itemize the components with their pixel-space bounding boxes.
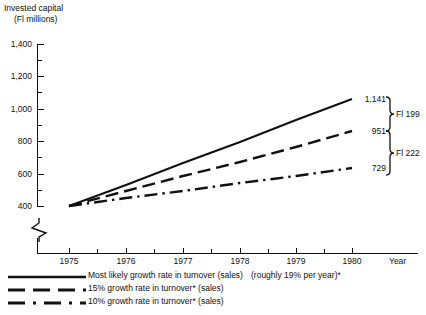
brace-lower (386, 131, 394, 175)
legend-row-most-likely: Most likely growth rate in turnover (sal… (2, 270, 426, 283)
chart-subtitle: (Fl millions) (14, 14, 57, 25)
y-tick-label: 800 (0, 136, 32, 146)
legend-swatch-dashed (8, 286, 86, 294)
x-tick-major (183, 248, 184, 253)
y-tick-label: 600 (0, 169, 32, 179)
x-tick-label: 1978 (220, 256, 260, 266)
x-axis-line (37, 253, 418, 254)
legend-note: (roughly 19% per year)* (251, 270, 341, 280)
x-tick-minor (268, 249, 269, 253)
brace-upper (386, 97, 394, 131)
series-line-most-likely (69, 99, 352, 206)
y-tick-label: 1,400 (0, 39, 32, 49)
y-tick-label: 1,000 (0, 104, 32, 114)
y-tick-minor (38, 60, 42, 61)
y-tick-major (38, 76, 44, 77)
x-tick-label: 1980 (332, 256, 372, 266)
y-tick-minor (38, 125, 42, 126)
x-tick-major (352, 248, 353, 253)
x-tick-minor (211, 249, 212, 253)
x-tick-major (296, 248, 297, 253)
x-tick-minor (97, 249, 98, 253)
x-tick-label: 1977 (163, 256, 203, 266)
x-tick-major (240, 248, 241, 253)
end-label-15pct: 951 (352, 126, 386, 136)
series-line-15pct (69, 131, 352, 206)
legend-swatch-solid (8, 273, 86, 281)
legend-label-15pct: 15% growth rate in turnover* (sales) (88, 283, 224, 293)
y-tick-major (38, 141, 44, 142)
invested-capital-line-chart: Invested capital (Fl millions) 1,400 1,2… (0, 0, 426, 315)
x-tick-label: 1975 (49, 256, 89, 266)
y-axis-break-icon (28, 218, 50, 242)
y-tick-major (38, 109, 44, 110)
chart-title: Invested capital (4, 3, 63, 14)
series-line-10pct (69, 168, 352, 206)
chart-legend: Most likely growth rate in turnover (sal… (2, 270, 426, 309)
y-tick-major (38, 206, 44, 207)
y-tick-minor (38, 92, 42, 93)
x-tick-major (69, 248, 70, 253)
y-tick-major (38, 174, 44, 175)
y-tick-major (38, 44, 44, 45)
brace-label-lower: Fl 222 (396, 148, 420, 158)
legend-row-10pct: 10% growth rate in turnover* (sales) (2, 296, 426, 309)
y-tick-label: 400 (0, 201, 32, 211)
end-label-most-likely: 1,141 (352, 94, 386, 104)
legend-label-10pct: 10% growth rate in turnover* (sales) (88, 296, 224, 306)
x-axis-title: Year (389, 256, 406, 266)
x-tick-major (126, 248, 127, 253)
plot-lines (0, 0, 426, 315)
legend-row-15pct: 15% growth rate in turnover* (sales) (2, 283, 426, 296)
y-tick-minor (38, 190, 42, 191)
x-tick-minor (324, 249, 325, 253)
legend-label-most-likely: Most likely growth rate in turnover (sal… (88, 270, 243, 280)
brace-label-upper: Fl 199 (396, 109, 420, 119)
y-tick-label: 1,200 (0, 71, 32, 81)
y-tick-minor (38, 157, 42, 158)
x-tick-label: 1979 (276, 256, 316, 266)
x-tick-minor (154, 249, 155, 253)
legend-swatch-dash-dot (8, 299, 86, 307)
end-label-10pct: 729 (352, 163, 386, 173)
x-tick-label: 1976 (106, 256, 146, 266)
